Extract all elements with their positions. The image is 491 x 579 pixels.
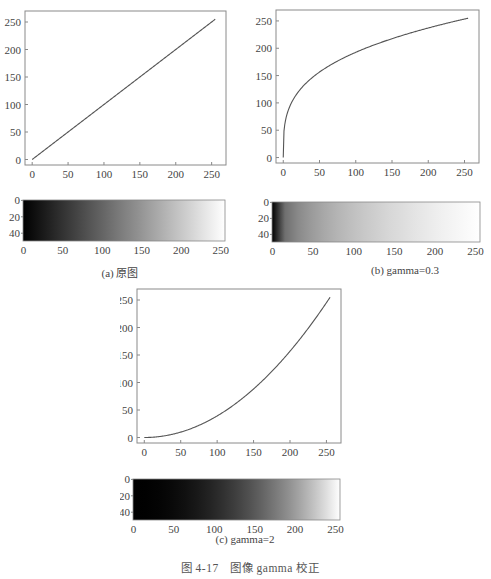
svg-text:40: 40 xyxy=(120,506,131,518)
svg-text:250: 250 xyxy=(120,294,134,306)
svg-text:200: 200 xyxy=(5,44,22,56)
panel-c: 050100150200250050100150200250 050100150… xyxy=(120,285,370,579)
caption-a: (a) 原图 xyxy=(70,264,170,280)
svg-text:250: 250 xyxy=(327,523,344,535)
svg-text:150: 150 xyxy=(120,349,134,361)
svg-text:200: 200 xyxy=(282,446,299,458)
svg-text:150: 150 xyxy=(134,244,151,256)
svg-text:40: 40 xyxy=(258,228,270,240)
svg-text:150: 150 xyxy=(386,245,403,257)
svg-text:250: 250 xyxy=(467,245,484,257)
svg-text:150: 150 xyxy=(245,446,262,458)
svg-text:200: 200 xyxy=(420,166,437,178)
svg-text:50: 50 xyxy=(122,404,134,416)
svg-text:0: 0 xyxy=(29,168,35,180)
panel-a: 050100150200250050100150200250 050100150… xyxy=(0,0,245,285)
svg-text:200: 200 xyxy=(168,168,185,180)
svg-text:50: 50 xyxy=(63,168,75,180)
svg-text:100: 100 xyxy=(94,244,111,256)
svg-text:0: 0 xyxy=(128,432,134,444)
svg-text:20: 20 xyxy=(120,490,131,502)
svg-text:20: 20 xyxy=(258,212,270,224)
svg-text:0: 0 xyxy=(281,166,287,178)
svg-text:40: 40 xyxy=(9,227,21,239)
svg-text:100: 100 xyxy=(96,168,113,180)
svg-text:100: 100 xyxy=(209,446,226,458)
svg-text:100: 100 xyxy=(256,97,273,109)
caption-c: (c) gamma=2 xyxy=(195,533,295,545)
panel-b: 050100150200250050100150200250 050100150… xyxy=(245,0,491,285)
svg-text:0: 0 xyxy=(270,245,276,257)
svg-text:100: 100 xyxy=(120,377,134,389)
gradient-bar-c: 05010015020025002040 xyxy=(120,469,370,539)
svg-text:150: 150 xyxy=(132,168,149,180)
svg-text:0: 0 xyxy=(21,244,27,256)
svg-text:250: 250 xyxy=(212,244,229,256)
svg-text:0: 0 xyxy=(142,446,148,458)
svg-text:150: 150 xyxy=(5,71,22,83)
svg-text:100: 100 xyxy=(348,166,365,178)
svg-text:0: 0 xyxy=(264,196,270,208)
svg-text:50: 50 xyxy=(175,446,187,458)
svg-text:50: 50 xyxy=(168,523,180,535)
svg-text:50: 50 xyxy=(261,124,273,136)
gradient-bar-b: 05010015020025002040 xyxy=(245,190,491,260)
svg-text:50: 50 xyxy=(57,244,69,256)
svg-text:0: 0 xyxy=(267,152,273,164)
curve-plot-b: 050100150200250050100150200250 xyxy=(245,0,491,185)
svg-text:200: 200 xyxy=(427,245,444,257)
figure-caption: 图 4-17 图像 gamma 校正 xyxy=(140,559,360,575)
svg-text:50: 50 xyxy=(10,126,22,138)
svg-text:0: 0 xyxy=(131,523,137,535)
caption-b: (b) gamma=0.3 xyxy=(345,264,465,276)
svg-text:50: 50 xyxy=(314,166,326,178)
svg-text:0: 0 xyxy=(16,154,22,166)
svg-text:0: 0 xyxy=(125,473,131,485)
curve-plot-a: 050100150200250050100150200250 xyxy=(0,0,245,185)
svg-text:250: 250 xyxy=(456,166,473,178)
svg-text:20: 20 xyxy=(9,211,21,223)
svg-text:50: 50 xyxy=(308,245,320,257)
svg-text:150: 150 xyxy=(384,166,401,178)
svg-text:200: 200 xyxy=(173,244,190,256)
svg-text:0: 0 xyxy=(15,194,21,206)
svg-text:100: 100 xyxy=(345,245,362,257)
svg-text:150: 150 xyxy=(256,70,273,82)
curve-plot-c: 050100150200250050100150200250 xyxy=(120,285,370,465)
svg-text:250: 250 xyxy=(5,16,22,28)
gradient-bar-a: 05010015020025002040 xyxy=(0,190,245,260)
svg-text:200: 200 xyxy=(120,322,134,334)
svg-text:200: 200 xyxy=(256,42,273,54)
svg-text:100: 100 xyxy=(5,99,22,111)
svg-text:250: 250 xyxy=(256,15,273,27)
svg-text:250: 250 xyxy=(318,446,335,458)
svg-text:250: 250 xyxy=(203,168,220,180)
